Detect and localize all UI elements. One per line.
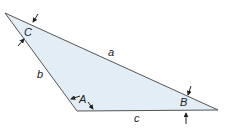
vertex-label-c: C [24,26,32,38]
angle-c-arrow-left [18,39,24,46]
angle-b-arrow-top [188,86,191,95]
side-label-b: b [37,68,43,80]
side-label-c: c [134,112,140,124]
vertex-label-b: B [180,96,187,108]
side-label-a: a [108,46,114,58]
vertex-label-a: A [78,93,86,105]
triangle-diagram: C a b A c B [0,0,240,128]
angle-c-arrow-top [33,14,38,22]
